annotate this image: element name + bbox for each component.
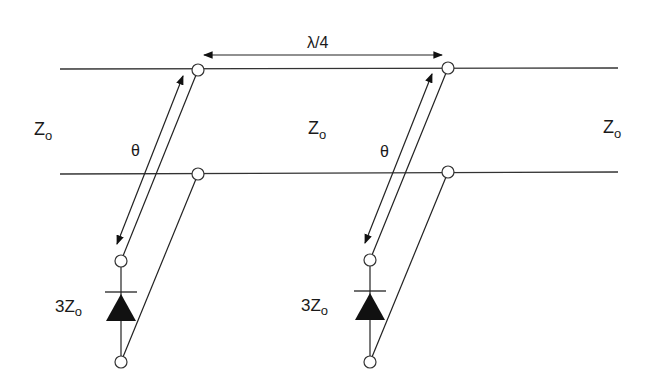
bottom-conductor — [60, 172, 618, 174]
impedance-label-left: Zo — [34, 119, 52, 143]
terminal-node — [364, 356, 376, 368]
stub-right — [354, 73, 446, 357]
theta-label-right: θ — [380, 143, 389, 160]
terminal-node — [442, 166, 454, 178]
diode-icon — [106, 294, 136, 321]
stub-impedance-label-left: 3Zo — [55, 297, 82, 319]
stub-impedance-label-right: 3Zo — [301, 296, 328, 318]
stub-left — [105, 75, 196, 357]
terminal-node — [115, 356, 127, 368]
terminal-node — [115, 255, 127, 267]
theta-arrow-left — [117, 76, 183, 244]
circuit-diagram: λ/4 Zo Zo Zo θ θ 3Zo 3Zo — [0, 0, 651, 386]
theta-arrow-right — [365, 74, 432, 243]
impedance-label-right: Zo — [603, 117, 621, 141]
terminal-node — [364, 254, 376, 266]
terminal-node — [192, 64, 204, 76]
top-conductor — [60, 68, 618, 69]
impedance-label-center: Zo — [308, 118, 326, 142]
diode-icon — [355, 293, 385, 320]
quarter-wave-label: λ/4 — [307, 34, 328, 51]
terminal-node — [192, 168, 204, 180]
theta-label-left: θ — [131, 142, 140, 159]
terminal-node — [442, 62, 454, 74]
